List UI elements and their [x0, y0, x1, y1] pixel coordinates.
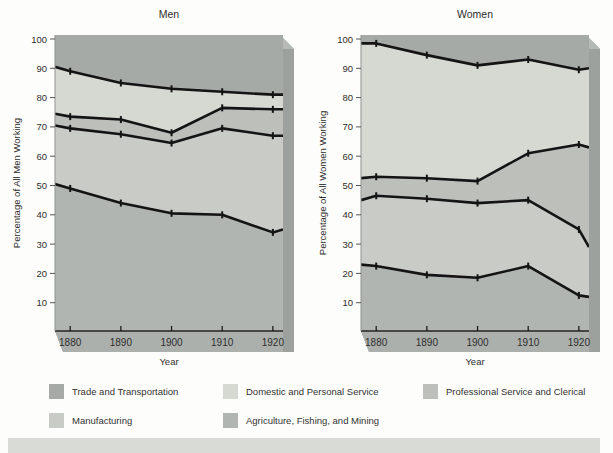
- legend-label: Domestic and Personal Service: [246, 386, 379, 397]
- y-tick-label: 90: [36, 63, 47, 74]
- y-tick-label: 60: [342, 151, 353, 162]
- trade-color-swatch: [49, 384, 64, 399]
- y-tick-label: 80: [342, 92, 353, 103]
- y-tick-label: 90: [342, 63, 353, 74]
- legend-label: Agriculture, Fishing, and Mining: [246, 415, 379, 426]
- x-tick-label: 1890: [416, 337, 439, 348]
- x-tick-label: 1900: [466, 337, 489, 348]
- legend-item-manufacturing: Manufacturing: [49, 413, 132, 428]
- legend-item-agriculture: Agriculture, Fishing, and Mining: [223, 413, 379, 428]
- y-tick-label: 10: [342, 297, 353, 308]
- x-tick-label: 1920: [262, 337, 285, 348]
- chart-title: Men: [159, 8, 180, 20]
- professional-color-swatch: [423, 384, 438, 399]
- y-tick-label: 60: [36, 151, 47, 162]
- x-axis-label: Year: [465, 356, 484, 367]
- domestic-color-swatch: [223, 384, 238, 399]
- occupations-by-sector-figure: 1880189019001910192010203040506070809010…: [0, 0, 613, 453]
- y-tick-label: 10: [36, 297, 47, 308]
- legend-item-domestic: Domestic and Personal Service: [223, 384, 379, 399]
- legend-item-trade: Trade and Transportation: [49, 384, 178, 399]
- y-tick-label: 30: [342, 239, 353, 250]
- y-tick-label: 70: [342, 121, 353, 132]
- y-tick-label: 80: [36, 92, 47, 103]
- women-stacked-area-chart: 1880189019001910192010203040506070809010…: [306, 0, 613, 378]
- y-tick-label: 40: [342, 209, 353, 220]
- legend-item-professional: Professional Service and Clerical: [423, 384, 585, 399]
- x-axis-label: Year: [159, 356, 178, 367]
- y-tick-label: 50: [36, 180, 47, 191]
- plot-area: [55, 35, 283, 334]
- y-tick-label: 100: [337, 34, 353, 45]
- y-tick-label: 100: [31, 34, 47, 45]
- x-tick-label: 1880: [59, 337, 82, 348]
- x-tick-label: 1890: [110, 337, 133, 348]
- page-section-strip: [8, 438, 600, 453]
- y-tick-label: 20: [36, 268, 47, 279]
- x-tick-label: 1910: [517, 337, 540, 348]
- x-tick-label: 1910: [211, 337, 234, 348]
- x-tick-label: 1880: [365, 337, 388, 348]
- y-tick-label: 30: [36, 239, 47, 250]
- y-axis-label: Percentage of All Men Working: [11, 118, 22, 248]
- y-tick-label: 20: [342, 268, 353, 279]
- legend-label: Trade and Transportation: [72, 386, 178, 397]
- y-axis-label: Percentage of All Women Working: [317, 111, 328, 255]
- y-tick-label: 50: [342, 180, 353, 191]
- agriculture-color-swatch: [223, 413, 238, 428]
- plot-area: [361, 35, 589, 334]
- manufacturing-color-swatch: [49, 413, 64, 428]
- legend-label: Manufacturing: [72, 415, 132, 426]
- y-tick-label: 70: [36, 121, 47, 132]
- men-stacked-area-chart: 1880189019001910192010203040506070809010…: [0, 0, 307, 378]
- y-tick-label: 40: [36, 209, 47, 220]
- x-tick-label: 1920: [568, 337, 591, 348]
- x-tick-label: 1900: [160, 337, 183, 348]
- chart-title: Women: [457, 8, 493, 20]
- legend-label: Professional Service and Clerical: [446, 386, 585, 397]
